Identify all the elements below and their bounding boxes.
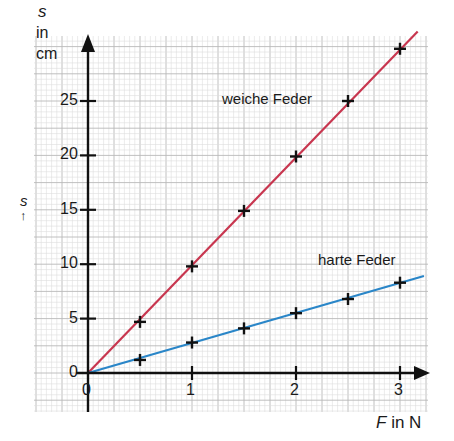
y-axis-var: s <box>38 2 47 22</box>
x-axis-label: F in N <box>376 413 421 433</box>
x-axis-arrow-icon <box>414 366 430 380</box>
side-var-label: s <box>20 192 28 209</box>
y-tick-label: 15 <box>60 200 78 218</box>
y-tick-label: 20 <box>60 145 78 163</box>
x-tick-label: 2 <box>290 381 299 399</box>
x-tick-label: 3 <box>394 381 403 399</box>
legend-weiche-feder: weiche Feder <box>222 90 312 107</box>
x-tick-label: 0 <box>82 381 91 399</box>
y-axis-unit-in: in <box>36 24 48 42</box>
x-axis-var: F <box>376 413 386 432</box>
side-arrow-icon: ↑ <box>20 208 27 223</box>
x-axis-unit: in N <box>391 413 421 432</box>
y-tick-label: 10 <box>60 254 78 272</box>
y-tick-label: 5 <box>69 309 78 327</box>
y-tick-label: 0 <box>69 363 78 381</box>
y-axis-unit-cm: cm <box>36 45 57 63</box>
x-tick-label: 1 <box>186 381 195 399</box>
y-tick-label: 25 <box>60 91 78 109</box>
legend-harte-feder: harte Feder <box>318 251 396 268</box>
fit-line-series-1 <box>88 276 424 373</box>
